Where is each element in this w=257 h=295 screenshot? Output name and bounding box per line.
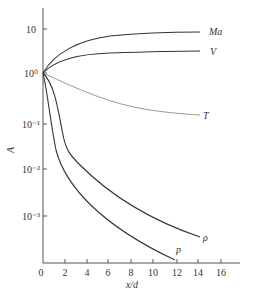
svg-text:2: 2: [63, 267, 68, 278]
svg-text:16: 16: [216, 267, 226, 278]
svg-text:0: 0: [39, 267, 44, 278]
svg-text:12: 12: [172, 267, 182, 278]
series-t-line: [43, 73, 200, 115]
svg-text:14: 14: [193, 267, 203, 278]
svg-text:10: 10: [26, 24, 36, 35]
svg-text:6: 6: [106, 267, 111, 278]
y-ticks: [43, 29, 47, 216]
series-rho-line: [43, 73, 200, 237]
series-label-v: V: [210, 46, 218, 57]
svg-text:4: 4: [85, 267, 90, 278]
svg-text:10⁻²: 10⁻²: [22, 164, 40, 175]
y-tick-labels: 10 10⁰ 10⁻¹ 10⁻² 10⁻³: [22, 24, 40, 222]
x-ticks: [65, 259, 221, 263]
svg-text:8: 8: [129, 267, 134, 278]
svg-text:10⁰: 10⁰: [24, 68, 38, 79]
series-label-p: p: [175, 244, 181, 255]
series-v-line: [43, 51, 200, 73]
y-axis-label: A: [5, 146, 16, 154]
svg-text:10⁻³: 10⁻³: [22, 211, 40, 222]
chart: 10 10⁰ 10⁻¹ 10⁻² 10⁻³ 0 2 4 6 8 10 12 14…: [0, 0, 257, 295]
svg-text:10⁻¹: 10⁻¹: [22, 119, 40, 130]
series-p-line: [43, 73, 175, 260]
x-axis-label: x/d: [125, 279, 139, 290]
series-label-ma: Ma: [208, 26, 222, 37]
x-tick-labels: 0 2 4 6 8 10 12 14 16: [39, 267, 227, 278]
svg-text:10: 10: [148, 267, 158, 278]
series-label-t: T: [203, 110, 210, 121]
series-label-rho: ρ: [202, 232, 208, 243]
